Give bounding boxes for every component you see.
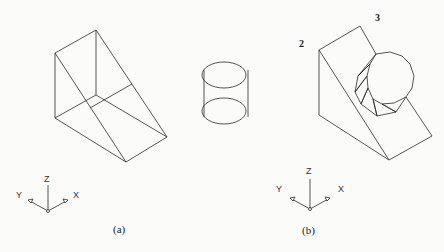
y-axis-label-a: Y — [16, 190, 22, 200]
x-axis-label-a: X — [73, 190, 79, 200]
cylinder — [202, 62, 248, 124]
caption-a: (a) — [113, 223, 125, 235]
z-axis-label-a: Z — [44, 174, 50, 184]
wedge-a — [55, 30, 167, 162]
diagram-canvas — [0, 0, 444, 252]
annotation-2: 2 — [299, 38, 304, 49]
annotation-3: 3 — [375, 12, 380, 23]
x-axis-label-b: X — [338, 184, 344, 194]
axis-triad-a — [28, 185, 68, 211]
caption-b: (b) — [302, 224, 315, 236]
axis-triad-b — [290, 179, 330, 209]
y-axis-label-b: Y — [276, 184, 282, 194]
wedge-b — [319, 26, 432, 160]
z-axis-label-b: Z — [306, 166, 312, 176]
